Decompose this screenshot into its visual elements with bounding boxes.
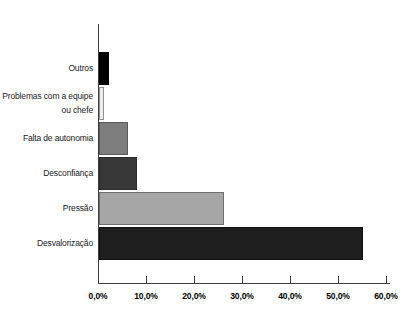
bar <box>99 157 137 190</box>
category-label: Outros <box>0 52 93 85</box>
x-axis-tick <box>386 276 387 284</box>
x-axis-tick-label: 20,0% <box>182 291 206 301</box>
x-axis-tick-label: 40,0% <box>278 291 302 301</box>
x-axis-tick <box>338 276 339 284</box>
x-axis-tick-label: 60,0% <box>374 291 398 301</box>
bar <box>99 87 104 120</box>
bar <box>99 52 109 85</box>
x-axis-tick-label: 50,0% <box>326 291 350 301</box>
bar-chart: OutrosProblemas com a equipe ou chefeFal… <box>0 0 416 320</box>
category-label: Problemas com a equipe ou chefe <box>0 87 93 120</box>
x-axis-tick <box>290 276 291 284</box>
x-axis-tick-label: 10,0% <box>134 291 158 301</box>
bar <box>99 227 363 260</box>
x-axis-line <box>98 283 390 284</box>
x-axis-tick <box>194 276 195 284</box>
x-axis-tick <box>242 276 243 284</box>
x-axis-tick-label: 0,0% <box>89 291 108 301</box>
x-axis-tick-label: 30,0% <box>230 291 254 301</box>
category-label: Pressão <box>0 192 93 225</box>
category-label: Desvalorização <box>0 227 93 260</box>
x-axis-tick <box>146 276 147 284</box>
category-label: Desconfiança <box>0 157 93 190</box>
bar <box>99 122 128 155</box>
bar <box>99 192 224 225</box>
category-label: Falta de autonomia <box>0 122 93 155</box>
